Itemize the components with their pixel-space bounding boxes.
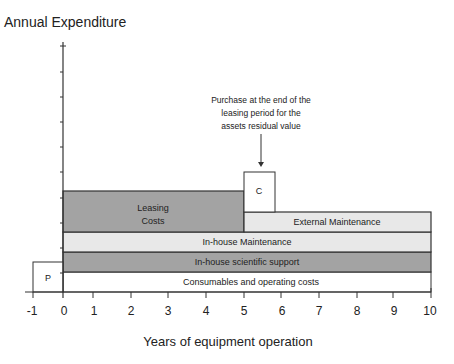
x-tick-label: 10 [423,304,437,318]
residual-label: C [256,186,263,196]
annotation-line-1: Purchase at the end of the [211,95,311,105]
x-tick-label: 4 [203,304,210,318]
external-maintenance-label: External Maintenance [293,217,380,227]
x-tick-label: 2 [128,304,135,318]
inhouse-maintenance-label: In-house Maintenance [202,237,291,247]
x-tick-label: 0 [61,304,68,318]
inhouse-scientific-label: In-house scientific support [195,257,300,267]
consumables-label: Consumables and operating costs [183,277,320,287]
arrow-down-icon [258,134,264,167]
expenditure-diagram: Annual Expenditure Leasing Costs Externa… [0,0,454,364]
x-tick-label: 8 [354,304,361,318]
x-tick-label: 3 [165,304,172,318]
x-tick-label: 9 [391,304,398,318]
x-tick-label: -1 [27,304,38,318]
x-tick-label: 7 [316,304,323,318]
x-tick-label: 6 [279,304,286,318]
purchase-label: P [45,273,51,283]
leasing-label-1: Leasing [137,203,169,213]
x-axis-label: Years of equipment operation [143,334,312,349]
diagram-title: Annual Expenditure [4,14,126,30]
annotation-line-2: leasing period for the [221,108,301,118]
x-tick-label: 5 [241,304,248,318]
annotation-line-3: assets residual value [221,121,301,131]
x-tick-label: 1 [91,304,98,318]
leasing-label-2: Costs [141,216,165,226]
